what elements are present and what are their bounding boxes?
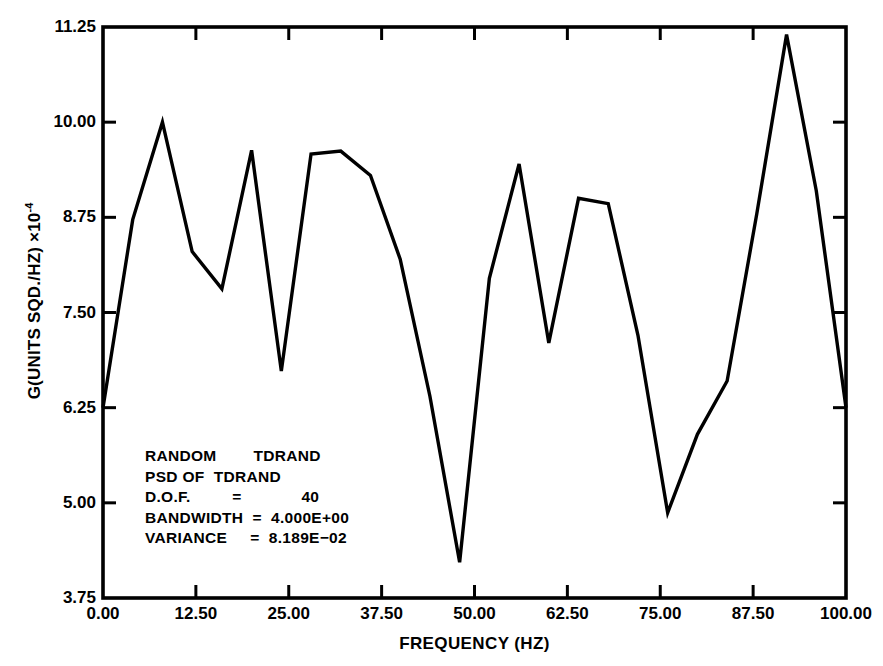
y-tick-label-3: 7.50 (10, 303, 96, 323)
x-axis-title: FREQUENCY (HZ) (103, 634, 846, 654)
annotation-line-4: VARIANCE = 8.189E−02 (145, 528, 349, 549)
annotation-line-2: D.O.F. = 40 (145, 487, 349, 508)
x-tick-label-8: 100.00 (791, 604, 883, 624)
y-tick-label-1: 5.00 (10, 493, 96, 513)
annotation-line-3: BANDWIDTH = 4.000E+00 (145, 508, 349, 529)
y-tick-label-4: 8.75 (10, 207, 96, 227)
annotation-line-1: PSD OF TDRAND (145, 467, 349, 488)
psd-chart-figure: G(UNITS SQD./HZ) ×10-4 3.755.006.257.508… (0, 0, 883, 666)
y-axis-tick-labels: 3.755.006.257.508.7510.0011.25 (0, 0, 96, 666)
annotation-line-0: RANDOM TDRAND (145, 446, 349, 467)
x-axis-tick-labels: 0.0012.5025.0037.5050.0062.5075.0087.501… (0, 604, 883, 630)
y-tick-label-5: 10.00 (10, 112, 96, 132)
plot-area (0, 0, 883, 666)
y-tick-label-2: 6.25 (10, 398, 96, 418)
chart-annotation-block: RANDOM TDRANDPSD OF TDRANDD.O.F. = 40BAN… (145, 446, 349, 549)
y-tick-label-6: 11.25 (10, 17, 96, 37)
